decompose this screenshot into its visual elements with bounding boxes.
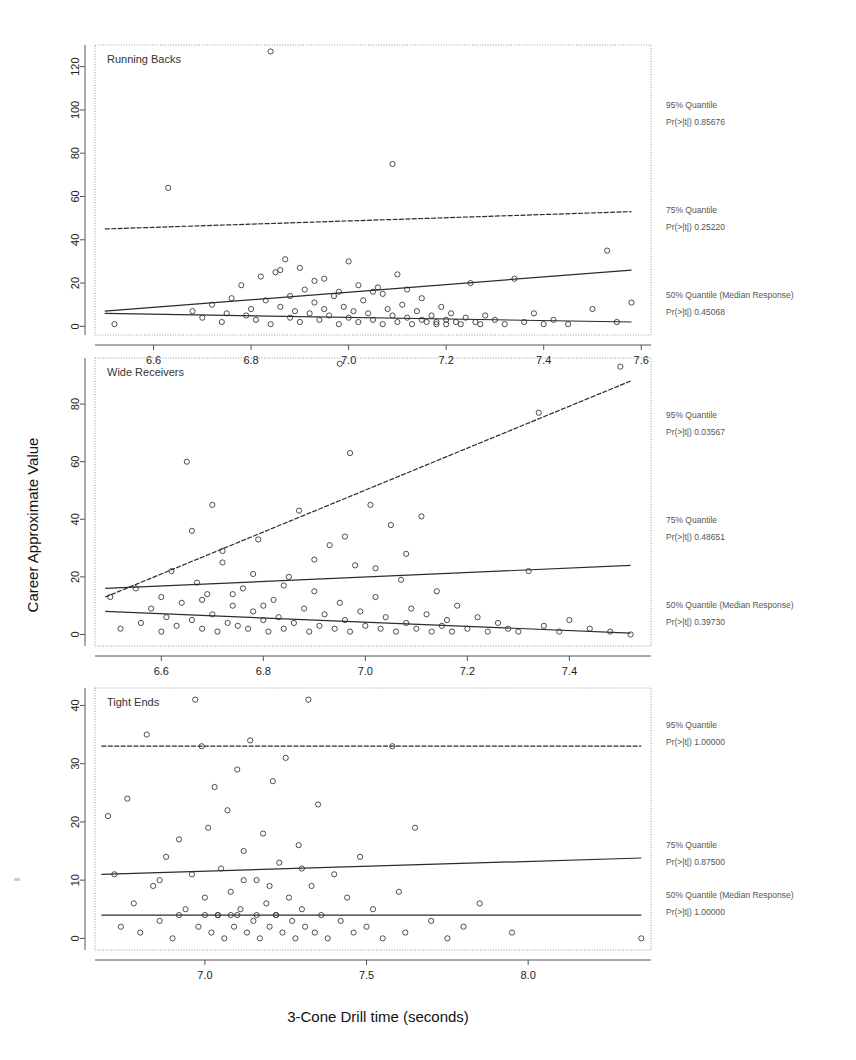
data-point — [248, 306, 253, 311]
data-point — [373, 594, 378, 599]
y-tick-label: 40 — [70, 234, 82, 246]
data-point — [302, 287, 307, 292]
data-point — [400, 302, 405, 307]
data-point — [347, 450, 352, 455]
data-point — [473, 319, 478, 324]
data-point — [338, 918, 343, 923]
data-point — [353, 563, 358, 568]
data-point — [312, 278, 317, 283]
data-point — [509, 930, 514, 935]
scan-artifact — [14, 878, 20, 881]
data-point — [184, 459, 189, 464]
data-point — [244, 930, 249, 935]
data-point — [245, 626, 250, 631]
data-point — [315, 802, 320, 807]
data-point — [347, 629, 352, 634]
data-point — [373, 566, 378, 571]
data-point — [125, 796, 130, 801]
y-tick-label: 120 — [70, 57, 82, 75]
data-point — [206, 825, 211, 830]
scatter-points — [112, 49, 634, 327]
data-point — [266, 629, 271, 634]
data-point — [366, 311, 371, 316]
x-tick-label: 7.6 — [634, 354, 649, 366]
data-point — [439, 304, 444, 309]
annotation-quantile-label: 50% Quantile (Median Response) — [666, 600, 794, 610]
data-point — [189, 528, 194, 533]
data-point — [296, 843, 301, 848]
annotation-p-value: Pr(>|t|) 0.39730 — [666, 617, 725, 627]
data-point — [618, 364, 623, 369]
panel-title: Running Backs — [107, 53, 181, 65]
panel-1: 6.66.87.07.27.47.6020406080100120Running… — [70, 45, 794, 366]
data-point — [383, 615, 388, 620]
data-point — [461, 924, 466, 929]
annotation-quantile-label: 95% Quantile — [666, 410, 717, 420]
scatter-points — [105, 697, 644, 941]
data-point — [325, 936, 330, 941]
data-point — [322, 612, 327, 617]
data-point — [342, 534, 347, 539]
data-point — [159, 629, 164, 634]
data-point — [404, 551, 409, 556]
data-point — [351, 930, 356, 935]
data-point — [261, 603, 266, 608]
quantile-fit-line — [105, 270, 632, 311]
y-tick-label: 80 — [70, 147, 82, 159]
data-point — [475, 615, 480, 620]
panel-title: Wide Receivers — [107, 366, 185, 378]
data-point — [118, 626, 123, 631]
data-point — [235, 623, 240, 628]
data-point — [309, 883, 314, 888]
data-point — [629, 300, 634, 305]
data-point — [210, 502, 215, 507]
data-point — [385, 306, 390, 311]
data-point — [458, 322, 463, 327]
quantile-fit-line — [105, 212, 632, 229]
data-point — [190, 309, 195, 314]
data-point — [429, 629, 434, 634]
data-point — [219, 319, 224, 324]
data-point — [409, 322, 414, 327]
data-point — [281, 626, 286, 631]
data-point — [241, 878, 246, 883]
data-point — [356, 283, 361, 288]
x-tick-label: 7.0 — [341, 354, 356, 366]
data-point — [378, 626, 383, 631]
data-point — [331, 293, 336, 298]
data-point — [317, 623, 322, 628]
data-point — [267, 883, 272, 888]
data-point — [283, 755, 288, 760]
data-point — [264, 901, 269, 906]
data-point — [388, 522, 393, 527]
data-point — [225, 808, 230, 813]
x-tick-label: 7.0 — [197, 969, 212, 981]
data-point — [166, 185, 171, 190]
data-point — [605, 248, 610, 253]
y-tick-label: 0 — [70, 323, 82, 329]
data-point — [273, 270, 278, 275]
data-point — [281, 583, 286, 588]
data-point — [256, 537, 261, 542]
data-point — [531, 311, 536, 316]
data-point — [429, 918, 434, 923]
data-point — [200, 626, 205, 631]
data-point — [193, 697, 198, 702]
data-point — [322, 306, 327, 311]
data-point — [449, 629, 454, 634]
data-point — [567, 617, 572, 622]
data-point — [222, 936, 227, 941]
y-tick-label: 0 — [70, 935, 82, 941]
data-point — [254, 878, 259, 883]
data-point — [251, 609, 256, 614]
data-point — [312, 557, 317, 562]
quantile-fit-line — [105, 611, 630, 633]
y-tick-label: 60 — [70, 190, 82, 202]
data-point — [478, 322, 483, 327]
data-point — [409, 606, 414, 611]
data-point — [200, 315, 205, 320]
y-tick-label: 60 — [70, 456, 82, 468]
data-point — [138, 620, 143, 625]
data-point — [312, 930, 317, 935]
x-tick-label: 7.4 — [562, 665, 577, 677]
